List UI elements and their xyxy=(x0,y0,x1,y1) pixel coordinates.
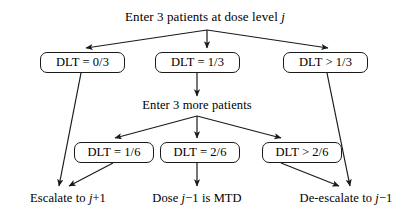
outcome-escalate: Escalate to j+1 xyxy=(8,191,128,206)
arrow-cohort1left-to-escalate xyxy=(59,73,81,186)
arrow-cohort2right-to-deescalate xyxy=(281,163,339,186)
arrow-cohort1right-to-deescalate xyxy=(327,73,350,186)
node-dlt-2-of-6-label: DLT = 2/6 xyxy=(173,145,226,160)
diagram-title: Enter 3 patients at dose level j xyxy=(0,9,410,25)
outcome-mtd: Dose j−1 is MTD xyxy=(137,191,257,206)
node-dlt-1-of-6[interactable]: DLT = 1/6 xyxy=(74,142,154,163)
node-dlt-1-of-6-label: DLT = 1/6 xyxy=(87,145,140,160)
outcome-deescalate-suffix: −1 xyxy=(379,191,393,205)
node-dlt-gt-1-of-3-label: DLT > 1/3 xyxy=(299,55,352,70)
node-dlt-0-of-3[interactable]: DLT = 0/3 xyxy=(40,52,125,73)
outcome-mtd-prefix: Dose xyxy=(152,191,178,205)
node-dlt-2-of-6[interactable]: DLT = 2/6 xyxy=(160,142,240,163)
arrow-title-to-cohort1-left xyxy=(86,30,207,48)
midstep-label: Enter 3 more patients xyxy=(107,98,287,113)
node-dlt-0-of-3-label: DLT = 0/3 xyxy=(56,55,109,70)
outcome-escalate-prefix: Escalate to xyxy=(30,191,86,205)
diagram-title-text: Enter 3 patients at dose level xyxy=(125,9,278,24)
node-dlt-1-of-3-label: DLT = 1/3 xyxy=(171,55,224,70)
outcome-deescalate-prefix: De-escalate to xyxy=(300,191,373,205)
arrow-midstep-to-cohort2-right xyxy=(197,116,281,138)
node-dlt-gt-1-of-3[interactable]: DLT > 1/3 xyxy=(283,52,368,73)
outcome-escalate-suffix: +1 xyxy=(92,191,106,205)
node-dlt-gt-2-of-6-label: DLT > 2/6 xyxy=(275,145,328,160)
arrow-title-to-cohort1-right xyxy=(207,30,328,48)
flowchart-diagram: Enter 3 patients at dose level j DLT = 0… xyxy=(0,0,410,216)
outcome-deescalate: De-escalate to j−1 xyxy=(282,191,410,206)
arrow-midstep-to-cohort2-left xyxy=(115,116,197,138)
outcome-mtd-suffix: −1 is MTD xyxy=(185,191,242,205)
diagram-title-variable: j xyxy=(281,9,285,24)
node-dlt-gt-2-of-6[interactable]: DLT > 2/6 xyxy=(262,142,342,163)
arrow-cohort2left-to-escalate xyxy=(69,163,113,186)
node-dlt-1-of-3[interactable]: DLT = 1/3 xyxy=(155,52,240,73)
